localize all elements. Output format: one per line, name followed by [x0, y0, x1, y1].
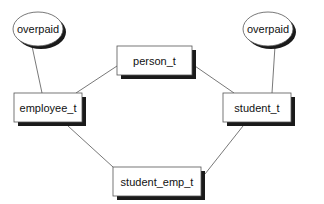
node-label: employee_t — [20, 102, 77, 114]
diagram-canvas: person_temployee_tstudent_tstudent_emp_t… — [0, 0, 324, 204]
node-person-t[interactable]: person_t — [117, 46, 196, 79]
edge-person_t-employee_t — [76, 66, 117, 93]
node-label: overpaid — [17, 23, 59, 35]
edge-person_t-student_t — [192, 64, 234, 93]
node-student-t[interactable]: student_t — [223, 93, 295, 126]
node-label: student_t — [234, 102, 279, 114]
node-overpaid-right[interactable]: overpaid — [243, 12, 296, 49]
node-label: student_emp_t — [121, 176, 194, 188]
node-overpaid-left[interactable]: overpaid — [13, 12, 66, 49]
nodes: person_temployee_tstudent_tstudent_emp_t… — [13, 12, 296, 200]
edge-student_t-student_emp_t — [205, 126, 243, 174]
edge-overpaid_left-employee_t — [32, 46, 42, 93]
node-employee-t[interactable]: employee_t — [14, 93, 86, 126]
edge-overpaid_right-student_t — [272, 46, 275, 93]
node-student-emp-t[interactable]: student_emp_t — [113, 167, 205, 200]
node-label: overpaid — [247, 23, 289, 35]
edge-employee_t-student_emp_t — [68, 126, 113, 167]
node-label: person_t — [133, 55, 176, 67]
